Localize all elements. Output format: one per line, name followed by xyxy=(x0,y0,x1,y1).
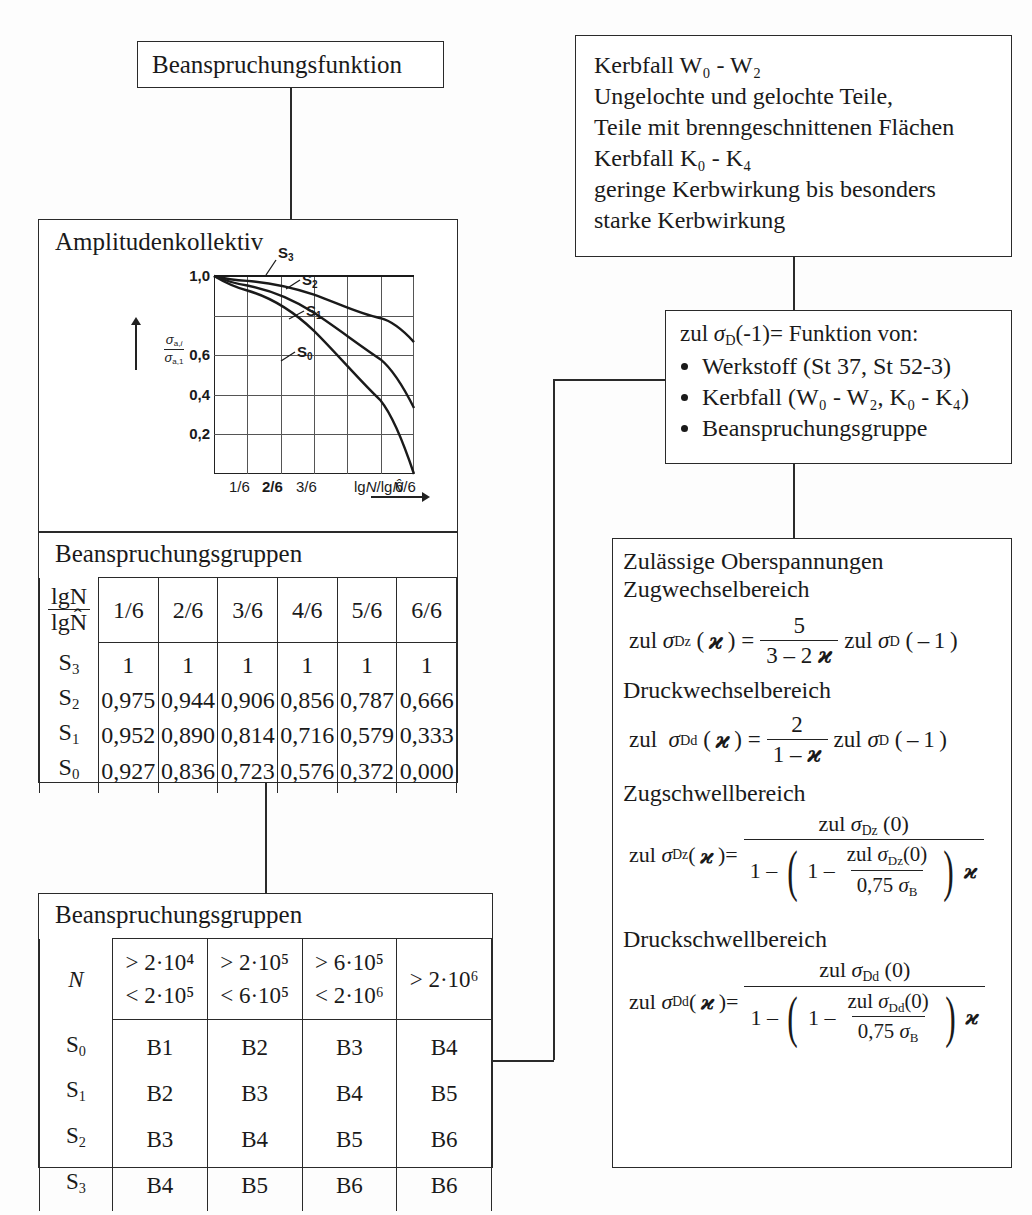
formula-section-title-zugschwell: Zugschwellbereich xyxy=(623,779,1011,807)
fraction-denominator: 1 – ( 1 – zul σDd(0) 0,75 σB ) ϰ xyxy=(744,986,985,1046)
range-line-1: > 2·10⁴ xyxy=(125,950,194,975)
table2-cell: B2 xyxy=(207,1020,302,1071)
frac-top: lgN xyxy=(51,583,87,609)
fraction-numerator: zul σDz (0) xyxy=(812,811,914,839)
table1-cell: 0,666 xyxy=(397,683,457,718)
fraction-numerator: 5 xyxy=(787,613,811,640)
table1-cell: 0,944 xyxy=(158,683,218,718)
table1-cell: 0,814 xyxy=(218,718,278,753)
table2-cell: B4 xyxy=(302,1070,397,1116)
y-axis-arrow-icon xyxy=(135,324,137,370)
table2-corner-header: N xyxy=(40,939,113,1020)
table1-cell: 0,000 xyxy=(397,753,457,793)
range-line-2: < 2·10⁵ xyxy=(125,983,194,1008)
table2-row-label: S3 xyxy=(40,1162,113,1211)
table2-row-label: S0 xyxy=(40,1020,113,1071)
kerbfall-line: geringe Kerbwirkung bis besonders xyxy=(594,174,1011,205)
table1-cell: 1 xyxy=(218,643,278,683)
formula-section-title-druckwechsel: Druckwechselbereich xyxy=(623,676,1011,704)
kerbfall-line: Teile mit brenngeschnittenen Flächen xyxy=(594,112,1011,143)
formula-zugwechselbereich: zul σDz ( ϰ ) = 5 3 – 2 ϰ zul σD ( – 1 ) xyxy=(629,613,1011,670)
formula-zugschwellbereich: zul σDz( ϰ )= zul σDz (0) 1 – ( 1 – zul … xyxy=(629,811,1011,900)
table1-cell: 0,952 xyxy=(99,718,159,753)
table2-cell: B2 xyxy=(113,1070,208,1116)
x-axis-label: lgN/lgN̂ xyxy=(354,478,403,495)
table1-cell: 0,716 xyxy=(277,718,337,753)
curve-label-s3: S3 xyxy=(278,244,294,263)
table1-row-label: S3 xyxy=(40,643,99,683)
frac-bottom: lgN̂ xyxy=(51,609,87,635)
range-line-2: < 2·10⁶ xyxy=(315,983,384,1008)
table1-cell: 0,787 xyxy=(337,683,397,718)
table2-cell: B6 xyxy=(397,1116,492,1162)
connector-note-to-zulfunktion xyxy=(793,257,795,310)
curve-label-s0: S0 xyxy=(297,343,313,362)
formula-druckwechselbereich: zul σDd ( ϰ ) = 2 1 – ϰ zul σD ( – 1 ) xyxy=(629,712,1011,769)
formula-druckschwellbereich: zul σDd( ϰ )= zul σDd (0) 1 – ( 1 – zul … xyxy=(629,957,1011,1046)
chart-plot-area: S3 S2 S1 S0 1,0 0,6 0,4 0,2 1/6 2/6 3/6 … xyxy=(214,276,414,474)
table2-cell: B3 xyxy=(113,1116,208,1162)
range-line-2: < 6·10⁵ xyxy=(220,983,289,1008)
table2-cell: B5 xyxy=(397,1070,492,1116)
chart-title: Amplitudenkollektiv xyxy=(55,228,263,256)
curve-label-s1: S1 xyxy=(306,302,322,321)
beanspruchungsgruppen-table-2: N > 2·10⁴ < 2·10⁵ > 2·10⁵ < 6·10⁵ > 6·10… xyxy=(39,938,492,1211)
fraction-denominator: 1 – ϰ xyxy=(767,739,828,768)
formula-section-title-druckschwell: Druckschwellbereich xyxy=(623,925,1011,953)
kerbfall-line: starke Kerbwirkung xyxy=(594,205,1011,236)
beanspruchungsgruppen-panel-1: Beanspruchungsgruppen lgN lgN̂ 1/6 2/6 3… xyxy=(38,532,458,783)
table-row: S0 B1 B2 B3 B4 xyxy=(40,1020,492,1071)
table1-cell: 0,906 xyxy=(218,683,278,718)
table1-cell: 0,333 xyxy=(397,718,457,753)
table-row: S3 B4 B5 B6 B6 xyxy=(40,1162,492,1211)
table1-row-label: S2 xyxy=(40,683,99,718)
table1-col-header: 6/6 xyxy=(397,578,457,643)
fraction-denominator: 1 – ( 1 – zul σDz(0) 0,75 σB ) ϰ xyxy=(744,839,984,899)
connector-left-horizontal-top xyxy=(553,379,666,381)
zul-sigma-d-funktion-box: zul σD(-1)= Funktion von: Werkstoff (St … xyxy=(665,310,1012,464)
table1-cell: 1 xyxy=(277,643,337,683)
zul-funktion-heading: zul σD(-1)= Funktion von: xyxy=(680,321,1011,349)
x-tick-label: 3/6 xyxy=(296,478,317,495)
table-row: S2 0,975 0,944 0,906 0,856 0,787 0,666 xyxy=(40,683,457,718)
inner-numerator: zul σDz(0) xyxy=(841,842,934,870)
table2-title: Beanspruchungsgruppen xyxy=(55,901,302,929)
fraction-numerator: zul σDd (0) xyxy=(813,957,916,985)
table2-row-label: S1 xyxy=(40,1070,113,1116)
table1-row-label: S0 xyxy=(40,753,99,793)
table1-cell: 0,372 xyxy=(337,753,397,793)
table1-cell: 0,836 xyxy=(158,753,218,793)
x-tick-label: 2/6 xyxy=(262,478,283,495)
table1-cell: 0,890 xyxy=(158,718,218,753)
zul-funktion-item: Werkstoff (St 37, St 52-3) xyxy=(702,351,1011,382)
table1-cell: 0,723 xyxy=(218,753,278,793)
table2-col-header: > 2·10⁶ xyxy=(397,939,492,1020)
connector-left-horizontal-bottom xyxy=(493,1060,554,1062)
y-tick-label: 0,2 xyxy=(189,425,210,442)
amplitudenkollektiv-panel: Amplitudenkollektiv σa,i σa,1 xyxy=(38,219,458,532)
table-row: S0 0,927 0,836 0,723 0,576 0,372 0,000 xyxy=(40,753,457,793)
zul-funktion-item: Beanspruchungsgruppe xyxy=(702,413,1011,444)
kerbfall-note-box: Kerbfall W₀ - W₂ Ungelochte und gelochte… xyxy=(575,35,1012,257)
table1-cell: 1 xyxy=(397,643,457,683)
table2-cell: B5 xyxy=(302,1116,397,1162)
table2-corner-label: N xyxy=(68,967,83,992)
zul-funktion-item: Kerbfall (W₀ - W₂, K₀ - K₄) xyxy=(702,382,1011,413)
table2-col-header: > 2·10⁵ < 6·10⁵ xyxy=(207,939,302,1020)
y-tick-label: 0,4 xyxy=(189,386,210,403)
table1-col-header: 3/6 xyxy=(218,578,278,643)
table1-cell: 1 xyxy=(337,643,397,683)
kerbfall-line: Kerbfall W₀ - W₂ xyxy=(594,50,1011,81)
table2-row-label: S2 xyxy=(40,1116,113,1162)
table2-cell: B4 xyxy=(397,1020,492,1071)
zul-funktion-list: Werkstoff (St 37, St 52-3) Kerbfall (W₀ … xyxy=(680,351,1011,444)
table2-cell: B5 xyxy=(207,1162,302,1211)
connector-table1-to-table2 xyxy=(265,783,267,893)
range-line-1: > 2·10⁵ xyxy=(220,950,289,975)
y-tick-label: 0,6 xyxy=(189,346,210,363)
x-tick-label: 1/6 xyxy=(229,478,250,495)
table1-corner-header: lgN lgN̂ xyxy=(40,578,99,643)
inner-denominator: 0,75 σB xyxy=(852,1016,925,1046)
table2-col-header: > 6·10⁵ < 2·10⁶ xyxy=(302,939,397,1020)
table2-col-header: > 2·10⁴ < 2·10⁵ xyxy=(113,939,208,1020)
